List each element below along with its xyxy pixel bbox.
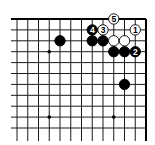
white-stone-5: 5 xyxy=(109,14,119,24)
white-stone-3: 3 xyxy=(98,25,108,35)
black-stone xyxy=(119,47,129,57)
black-stone xyxy=(98,36,108,46)
black-stone-2: 2 xyxy=(130,47,140,57)
white-stone xyxy=(119,36,129,46)
black-stone xyxy=(109,47,119,57)
move-number-label: 3 xyxy=(101,25,106,35)
white-stone-1: 1 xyxy=(130,25,140,35)
go-board: 43512 xyxy=(0,0,155,145)
black-stone xyxy=(87,36,97,46)
move-number-label: 1 xyxy=(133,25,138,35)
star-point xyxy=(47,115,51,119)
star-point xyxy=(112,115,116,119)
black-stone-4: 4 xyxy=(87,25,97,35)
star-point xyxy=(47,50,51,54)
white-stone xyxy=(109,36,119,46)
black-stone xyxy=(119,79,129,89)
move-number-label: 2 xyxy=(133,47,138,57)
black-stone xyxy=(55,36,65,46)
move-number-label: 4 xyxy=(90,25,95,35)
move-number-label: 5 xyxy=(111,14,116,24)
